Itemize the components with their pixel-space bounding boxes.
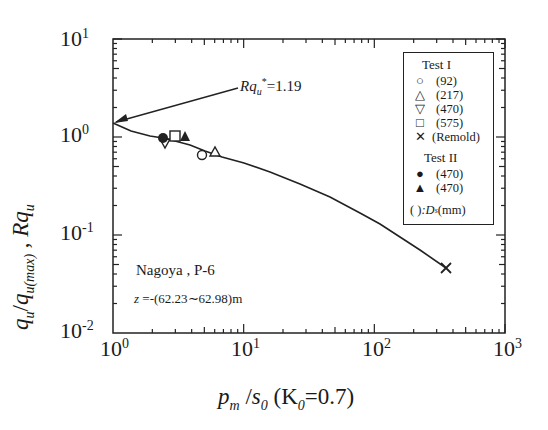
marker-filled-circle [158, 133, 168, 143]
site-label: Nagoya , P-6 [136, 262, 215, 279]
legend-item: ✕(Remold) [412, 130, 480, 144]
x-tick-label-10^1: 101 [231, 336, 260, 362]
legend-item: △(217) [412, 88, 463, 102]
x-tick-label-10^0: 100 [100, 336, 129, 362]
legend-item: ▲(470) [412, 181, 463, 195]
legend-item: ▽(470) [412, 102, 463, 116]
x-axis-label: pm /s0 (K0=0.7) [218, 384, 354, 414]
legend-item: ●(470) [412, 167, 463, 181]
annotation-arrow [116, 88, 238, 122]
marker-open-circle [198, 151, 207, 160]
rq-annotation: Rqu*=1.19 [240, 76, 301, 97]
legend-header-test1: Test I [422, 57, 451, 73]
y-tick-label-10^-1: 10-1 [60, 220, 94, 246]
legend-header-test2: Test II [424, 150, 457, 166]
marker-x [441, 263, 451, 273]
marker-filled-triangle-up [180, 131, 190, 141]
y-tick-label-10^0: 100 [60, 122, 89, 148]
y-tick-label-10^1: 101 [60, 26, 89, 52]
arrowhead-icon [114, 114, 128, 123]
x-mark-icon: ✕ [412, 129, 428, 145]
legend: Test I ○(92) △(217) ▽(470) □(575) ✕(Remo… [403, 52, 494, 225]
depth-label: z =-(62.23∼62.98)m [134, 291, 242, 307]
legend-item: □(575) [412, 116, 463, 130]
filled-triangle-up-icon: ▲ [412, 180, 428, 196]
x-tick-label-10^2: 102 [362, 336, 391, 362]
legend-item: ○(92) [412, 74, 457, 88]
marker-open-triangle-up [210, 147, 220, 156]
y-tick-label-10^-2: 10-2 [60, 318, 94, 344]
y-axis-label: qu/qu(max) , Rqu [8, 204, 38, 330]
x-tick-label-10^3: 103 [493, 336, 522, 362]
marker-open-square [170, 131, 180, 141]
legend-footnote: ( ):Ds(mm) [410, 203, 466, 217]
